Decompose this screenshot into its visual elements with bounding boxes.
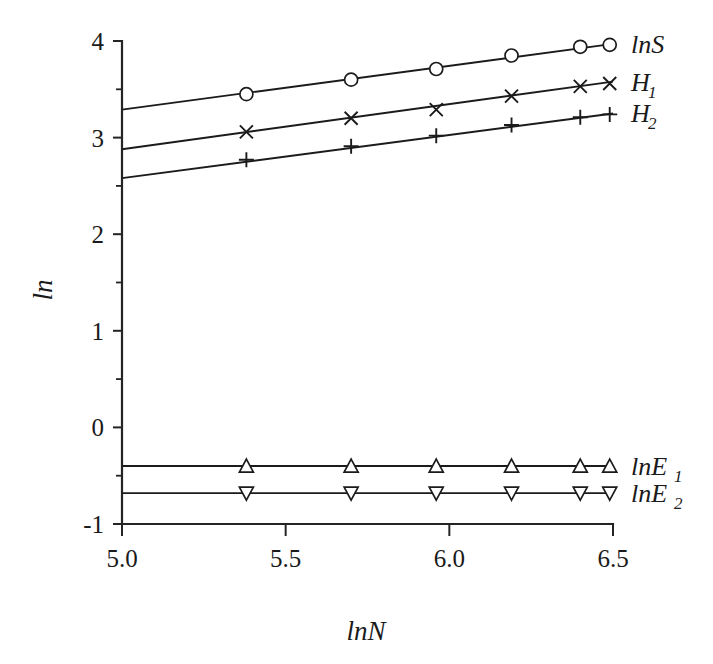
series-H1	[122, 77, 616, 149]
marker-H2-2	[429, 128, 444, 143]
marker-lnS-4	[574, 40, 587, 53]
y-axis-title: ln	[28, 279, 58, 300]
series-label-text-lnS: lnS	[631, 30, 664, 59]
series-labels: lnSH1H2lnE1lnE2	[630, 30, 683, 513]
chart-svg: 43210-15.05.56.06.5 lnSH1H2lnE1lnE2 ln l…	[0, 0, 713, 664]
x-tick-label-2: 6.0	[434, 545, 465, 572]
marker-H2-0	[239, 152, 254, 167]
series-label-lnS: lnS	[631, 30, 664, 59]
marker-lnS-0	[240, 88, 253, 101]
series-label-subscript-H2: 2	[648, 114, 657, 133]
marker-lnS-5	[603, 38, 616, 51]
x-tick-label-0: 5.0	[106, 545, 137, 572]
series-H2	[122, 107, 617, 178]
marker-H2-3	[504, 118, 519, 133]
y-tick-label-1: 3	[92, 125, 105, 152]
series-label-H2: H2	[630, 99, 657, 133]
y-tick-label-0: 4	[92, 28, 105, 55]
series-line-lnS	[122, 44, 613, 110]
y-tick-label-3: 1	[92, 318, 105, 345]
y-tick-label-5: -1	[83, 511, 104, 538]
series-lnE2	[122, 487, 617, 500]
series-label-text-lnE1: lnE	[631, 452, 667, 481]
series-label-H1: H1	[630, 68, 657, 102]
series-lnE1	[122, 459, 617, 472]
series-line-H1	[122, 82, 613, 150]
series-label-subscript-lnE2: 2	[674, 494, 683, 513]
marker-lnS-3	[505, 49, 518, 62]
marker-H2-4	[573, 110, 588, 125]
series-line-H2	[122, 113, 613, 178]
x-axis-title: lnN	[346, 616, 387, 646]
marker-lnS-1	[345, 73, 358, 86]
y-tick-label-2: 2	[92, 221, 105, 248]
x-tick-label-3: 6.5	[597, 545, 628, 572]
series-label-text-lnE2: lnE	[631, 479, 667, 508]
marker-lnS-2	[430, 63, 443, 76]
series-lnS	[122, 38, 616, 109]
series-label-subscript-lnE1: 1	[674, 467, 683, 486]
marker-H2-5	[602, 107, 617, 122]
x-tick-label-1: 5.5	[270, 545, 301, 572]
data-series	[122, 38, 617, 500]
y-tick-label-4: 0	[92, 414, 105, 441]
marker-H2-1	[344, 139, 359, 154]
chart-figure: 43210-15.05.56.06.5 lnSH1H2lnE1lnE2 ln l…	[0, 0, 713, 664]
